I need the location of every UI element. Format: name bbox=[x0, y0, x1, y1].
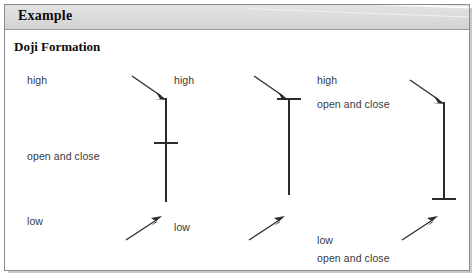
arrow-to-doji-dragonfly-low bbox=[401, 215, 443, 243]
header-highlight-streak bbox=[249, 5, 469, 9]
label-doji-gravestone-high: high bbox=[317, 74, 337, 86]
label-doji-standard-high: high bbox=[174, 74, 194, 86]
doji-standard-open-close-bar bbox=[154, 142, 178, 144]
doji-gravestone-wick bbox=[288, 98, 290, 195]
example-header-bar: Example bbox=[5, 5, 469, 30]
arrow-to-doji-standard-low bbox=[125, 215, 167, 243]
label-left-high: high bbox=[27, 74, 47, 86]
label-doji-standard-low: low bbox=[174, 221, 190, 233]
content-frame: Example Doji Formation high open and clo… bbox=[4, 4, 470, 271]
label-doji-gravestone-low: low bbox=[317, 234, 333, 246]
header-highlight-streak-secondary bbox=[249, 8, 469, 18]
doji-dragonfly-open-close-bar bbox=[432, 198, 456, 200]
frame-shadow-right bbox=[470, 8, 472, 271]
doji-dragonfly-wick bbox=[443, 102, 445, 200]
section-title: Doji Formation bbox=[14, 39, 100, 55]
arrow-to-doji-gravestone-high bbox=[253, 75, 293, 103]
header-title: Example bbox=[18, 8, 72, 24]
diagram-body: Doji Formation high open and close low h… bbox=[5, 31, 469, 270]
arrow-to-doji-gravestone-low bbox=[248, 215, 290, 243]
label-left-low: low bbox=[27, 215, 43, 227]
label-left-open-close: open and close bbox=[27, 150, 100, 162]
screenshot-root: Example Doji Formation high open and clo… bbox=[0, 0, 476, 279]
label-doji-dragonfly-open-close: open and close bbox=[317, 252, 390, 264]
arrow-to-doji-dragonfly-high bbox=[409, 79, 449, 107]
frame-shadow-bottom bbox=[8, 271, 472, 273]
label-doji-gravestone-open-close: open and close bbox=[317, 98, 390, 110]
doji-standard-wick bbox=[165, 98, 167, 202]
arrow-to-doji-standard-high bbox=[131, 75, 171, 103]
